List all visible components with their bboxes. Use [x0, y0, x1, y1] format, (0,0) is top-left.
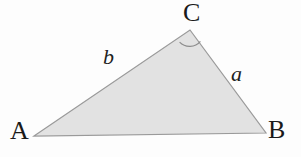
triangle-graphic — [0, 0, 301, 157]
vertex-label-b: B — [268, 117, 285, 143]
side-label-a: a — [231, 63, 242, 85]
side-label-b: b — [103, 46, 114, 68]
triangle-figure: A B C a b — [0, 0, 301, 157]
vertex-label-a: A — [10, 118, 29, 144]
vertex-label-c: C — [183, 0, 200, 26]
